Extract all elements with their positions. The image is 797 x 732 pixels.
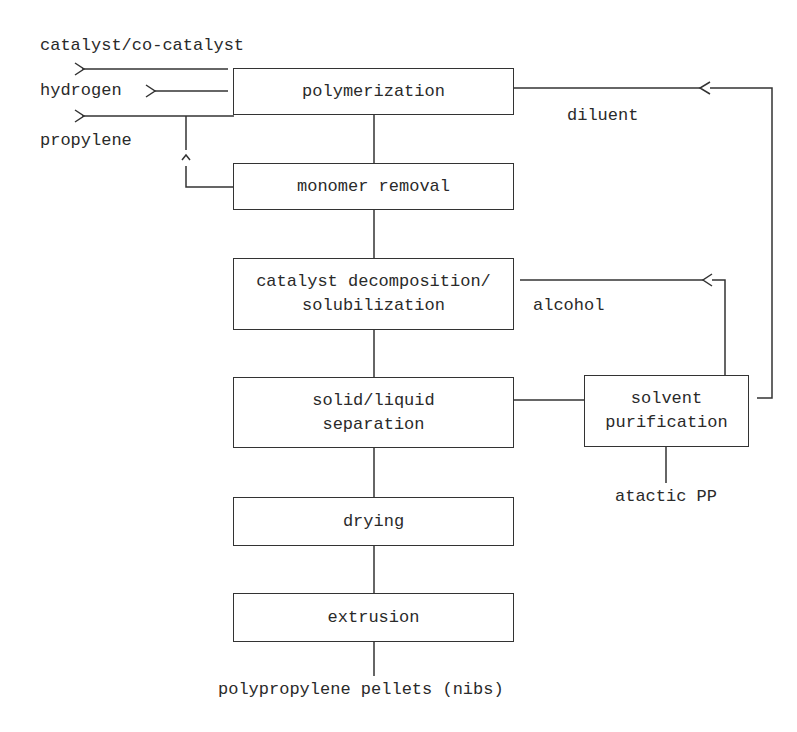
atactic-pp-label: atactic PP (615, 487, 717, 507)
monomer-recycle-arrow-icon (182, 155, 190, 160)
monomer-recycle-line (186, 166, 234, 187)
propylene-input-label: propylene (40, 131, 132, 151)
diluent-stream-label: diluent (567, 106, 638, 126)
separation-box: solid/liquid separation (233, 377, 514, 448)
extrusion-box: extrusion (233, 593, 514, 642)
catalyst-input-label: catalyst/co-catalyst (40, 36, 244, 56)
polymerization-box: polymerization (233, 68, 514, 115)
alcohol-return-line (712, 280, 725, 375)
drying-label: drying (343, 510, 404, 534)
output-label: polypropylene pellets (nibs) (218, 680, 504, 700)
extrusion-label: extrusion (328, 606, 420, 630)
monomer-removal-label: monomer removal (297, 175, 450, 199)
solvent-purification-label: solvent purification (605, 387, 727, 435)
alcohol-arrow-icon (703, 274, 712, 286)
hydrogen-input-label: hydrogen (40, 81, 122, 101)
catalyst-decomposition-label: catalyst decomposition/ solubilization (256, 270, 491, 318)
separation-label: solid/liquid separation (312, 389, 434, 437)
alcohol-stream-label: alcohol (533, 296, 604, 316)
monomer-removal-box: monomer removal (233, 163, 514, 210)
hydrogen-arrow-icon (146, 85, 155, 97)
drying-box: drying (233, 497, 514, 546)
diluent-arrow-icon (700, 82, 710, 94)
catalyst-decomposition-box: catalyst decomposition/ solubilization (233, 258, 514, 330)
polymerization-label: polymerization (302, 80, 445, 104)
diluent-return-line (710, 88, 772, 398)
solvent-purification-box: solvent purification (584, 375, 749, 447)
propylene-arrow-icon (75, 110, 84, 122)
catalyst-arrow-icon (75, 63, 84, 75)
